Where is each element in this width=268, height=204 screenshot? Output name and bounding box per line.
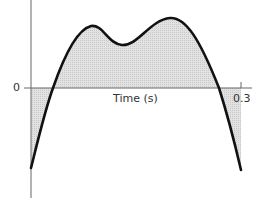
y-zero-label: 0 (13, 82, 20, 93)
x-axis-title: Time (s) (113, 93, 158, 104)
x-end-label: 0.3 (233, 93, 251, 104)
